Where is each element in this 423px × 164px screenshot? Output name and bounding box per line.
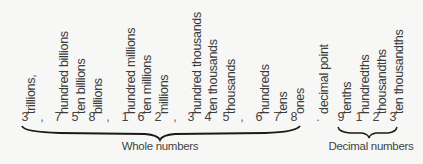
whole-numbers-brace <box>22 126 300 140</box>
whole-numbers-caption: Whole numbers <box>122 140 199 152</box>
decimal-numbers-brace <box>338 127 397 138</box>
decimal-numbers-caption: Decimal numbers <box>329 140 414 152</box>
